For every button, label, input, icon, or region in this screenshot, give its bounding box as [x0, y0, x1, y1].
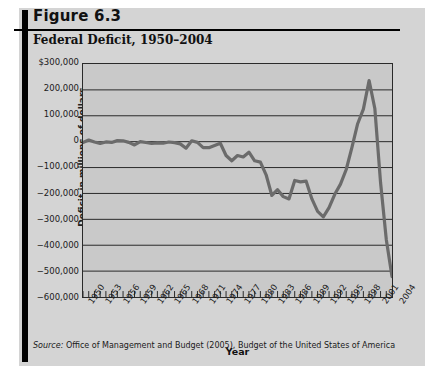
y-axis-tick-label: −100,000: [35, 161, 79, 171]
chart-area: Deficit in millions of dollars $300,0002…: [33, 57, 405, 332]
y-axis-tick-label: −500,000: [35, 266, 79, 276]
x-axis-tick-labels: 1950195319561959196219651968197119741977…: [82, 300, 395, 344]
y-axis-tick-label: 100,000: [35, 109, 79, 119]
y-axis-tick-label: 0: [35, 135, 79, 145]
y-axis-tick-label: −400,000: [35, 240, 79, 250]
source-citation: Source: Office of Management and Budget …: [33, 341, 395, 350]
source-prefix: Source:: [33, 341, 63, 350]
y-axis-tick-label: 200,000: [35, 83, 79, 93]
plot-area: [82, 63, 393, 298]
y-axis-tick-label: −300,000: [35, 214, 79, 224]
y-axis-tick-labels: $300,000200,000100,0000−100,000−200,000−…: [33, 57, 79, 304]
left-accent-bar: [22, 10, 28, 362]
data-line-federal-deficit: [83, 81, 392, 277]
y-axis-tick-label: −600,000: [35, 292, 79, 302]
line-chart-svg: [83, 64, 392, 297]
figure-container: Figure 6.3 Federal Deficit, 1950–2004 De…: [0, 0, 445, 378]
y-axis-tick-label: −200,000: [35, 188, 79, 198]
figure-label: Figure 6.3: [33, 7, 121, 25]
y-axis-tick-label: $300,000: [35, 57, 79, 67]
title-divider-rule: [14, 29, 400, 31]
source-text: Office of Management and Budget (2005), …: [63, 341, 395, 350]
figure-title: Federal Deficit, 1950–2004: [33, 33, 213, 47]
